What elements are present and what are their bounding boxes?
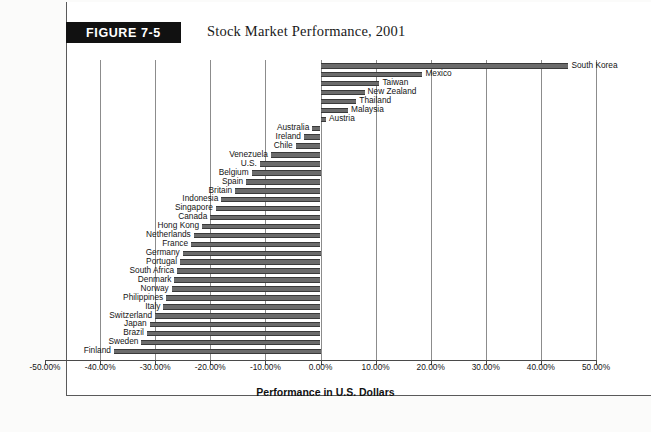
chart-bar-row: France bbox=[45, 241, 596, 249]
x-tick-label: -30.00% bbox=[140, 362, 171, 372]
chart-bar-row: Netherlands bbox=[45, 232, 596, 240]
chart-bar bbox=[141, 340, 320, 346]
chart-bar bbox=[191, 242, 320, 248]
chart-bar-row: Portugal bbox=[45, 258, 596, 266]
chart-bar bbox=[172, 286, 321, 292]
chart-bar bbox=[312, 126, 320, 132]
chart-bar bbox=[321, 117, 327, 123]
x-tick-label: 40.00% bbox=[527, 362, 555, 372]
figure-banner: FIGURE 7-5 Stock Market Performance, 200… bbox=[66, 22, 651, 43]
chart-bar-label: Sweden bbox=[108, 336, 138, 347]
chart-bar bbox=[296, 143, 321, 149]
chart-bar-row: Malaysia bbox=[45, 107, 596, 115]
chart-bar-row: Austria bbox=[45, 116, 596, 124]
chart-bar-row: Belgium bbox=[45, 169, 596, 177]
figure-number-badge: FIGURE 7-5 bbox=[66, 22, 181, 43]
chart-bar bbox=[177, 268, 320, 274]
chart-bar bbox=[321, 90, 365, 96]
chart-bar-row: Philippines bbox=[45, 294, 596, 302]
chart-bar bbox=[221, 197, 320, 203]
x-tick-label: -10.00% bbox=[250, 362, 281, 372]
x-tick-label: 50.00% bbox=[582, 362, 610, 372]
x-tick-label: -40.00% bbox=[85, 362, 116, 372]
chart-bar-row: Ireland bbox=[45, 133, 596, 141]
chart-bar-row: New Zealand bbox=[45, 89, 596, 97]
chart-bar-row: Spain bbox=[45, 178, 596, 186]
chart-bar bbox=[252, 170, 321, 176]
chart-bar-label: Chile bbox=[274, 140, 293, 151]
chart-bar-row: Germany bbox=[45, 250, 596, 258]
chart-bar-row: Venezuela bbox=[45, 151, 596, 159]
chart-bar bbox=[183, 251, 321, 257]
chart-bar bbox=[235, 188, 320, 194]
chart-bar bbox=[246, 179, 320, 185]
chart-x-tick-labels: -50.00%-40.00%-30.00%-20.00%-10.00%0.00%… bbox=[0, 362, 651, 376]
chart-bar bbox=[166, 295, 320, 301]
chart-bar-row: Hong Kong bbox=[45, 223, 596, 231]
chart-bar-row: Indonesia bbox=[45, 196, 596, 204]
x-tick-label: 30.00% bbox=[472, 362, 500, 372]
figure-title: Stock Market Performance, 2001 bbox=[207, 23, 405, 40]
chart-bar-label: Finland bbox=[84, 345, 111, 356]
chart-plot-area: South KoreaMexicoTaiwanNew ZealandThaila… bbox=[45, 60, 596, 360]
chart-bars: South KoreaMexicoTaiwanNew ZealandThaila… bbox=[45, 60, 596, 360]
chart-bar-label: Austria bbox=[329, 113, 355, 124]
chart-bar bbox=[210, 215, 320, 221]
chart-bar-row: Finland bbox=[45, 348, 596, 356]
chart-bar-row: Singapore bbox=[45, 205, 596, 213]
chart-bar-row: Thailand bbox=[45, 98, 596, 106]
gridline bbox=[596, 60, 597, 360]
chart-bar bbox=[163, 304, 320, 310]
figure-page: FIGURE 7-5 Stock Market Performance, 200… bbox=[0, 0, 651, 432]
chart-bar-label: Mexico bbox=[425, 68, 451, 79]
chart-bar-row: Chile bbox=[45, 142, 596, 150]
x-tick-label: 20.00% bbox=[417, 362, 445, 372]
chart-bar-row: Britain bbox=[45, 187, 596, 195]
chart-bar-row: U.S. bbox=[45, 160, 596, 168]
chart-bar-row: South Africa bbox=[45, 267, 596, 275]
x-tick-label: -50.00% bbox=[30, 362, 61, 372]
chart-x-axis-title: Performance in U.S. Dollars bbox=[0, 386, 651, 398]
chart-bar bbox=[150, 322, 321, 328]
chart-bar-row: Mexico bbox=[45, 71, 596, 79]
chart-bar bbox=[271, 152, 321, 158]
chart-bar bbox=[194, 233, 321, 239]
chart-bar bbox=[202, 224, 320, 230]
chart-bar bbox=[216, 206, 321, 212]
chart-bar-label: Malaysia bbox=[351, 104, 384, 115]
chart-bar bbox=[155, 313, 320, 319]
chart-bar-row: Taiwan bbox=[45, 80, 596, 88]
chart-bar bbox=[147, 331, 321, 337]
chart-bar-label: South Korea bbox=[571, 60, 617, 71]
chart-bar bbox=[304, 134, 321, 140]
chart-bar-row: Sweden bbox=[45, 339, 596, 347]
chart-bar-row: Canada bbox=[45, 214, 596, 222]
chart-bar-row: Denmark bbox=[45, 276, 596, 284]
chart-bar bbox=[260, 161, 321, 167]
x-tick-label: -20.00% bbox=[195, 362, 226, 372]
chart-bar bbox=[180, 259, 321, 265]
x-tick-label: 10.00% bbox=[362, 362, 390, 372]
x-tick-label: 0.00% bbox=[309, 362, 333, 372]
chart-bar-row: Australia bbox=[45, 125, 596, 133]
chart-bar bbox=[114, 349, 321, 355]
chart-bar-row: South Korea bbox=[45, 62, 596, 70]
chart-bar bbox=[174, 277, 320, 283]
